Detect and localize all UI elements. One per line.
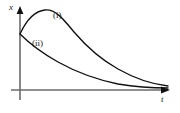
plot-canvas <box>0 0 180 113</box>
curve-label-ii: (ii) <box>32 39 43 48</box>
y-axis-label: x <box>9 3 13 12</box>
y-axis-arrowhead <box>17 6 24 14</box>
x-axis-label: t <box>161 95 164 104</box>
figure-container: x t (i) (ii) <box>0 0 180 113</box>
curve-label-i: (i) <box>53 11 62 20</box>
